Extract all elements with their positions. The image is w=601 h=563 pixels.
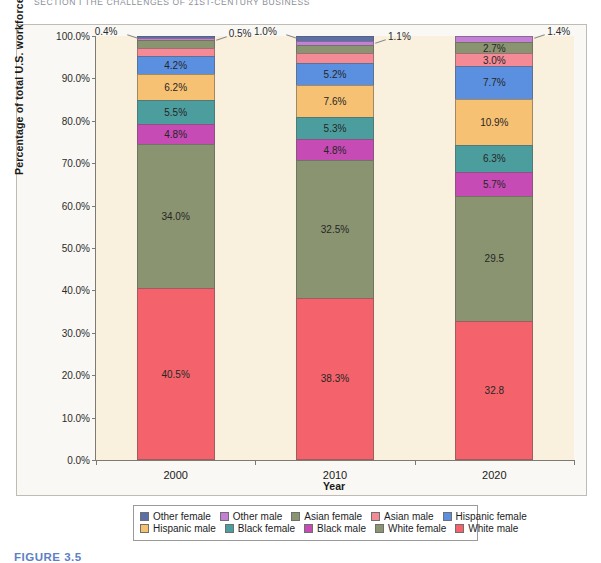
legend-item-hispanic-female[interactable]: Hispanic female xyxy=(443,511,527,522)
legend-label: Black male xyxy=(317,523,366,534)
bar-2010[interactable]: 38.3%32.5%4.8%5.3%7.6%5.2%2.2%1.9%1.1%1.… xyxy=(296,36,374,460)
legend-label: Hispanic male xyxy=(153,523,216,534)
bar-2020[interactable]: 32.829.55.7%6.3%10.9%7.7%3.0%2.7%1.4% xyxy=(455,36,533,460)
legend-label: Asian male xyxy=(384,511,433,522)
bar-2000[interactable]: 40.5%34.0%4.8%5.5%6.2%4.2%2.1%1.8%0.5%0.… xyxy=(137,36,215,460)
bar-segment-asian-female[interactable]: 2.7% xyxy=(455,42,533,53)
bar-segment-value: 6.3% xyxy=(483,153,506,164)
legend-swatch-icon xyxy=(225,524,234,533)
bar-segment-asian-male[interactable]: 2.2% xyxy=(296,53,374,62)
bar-segment-value: 4.2% xyxy=(164,60,187,71)
bar-segment-black-male[interactable]: 5.7% xyxy=(455,172,533,196)
y-axis-tick-mark xyxy=(92,418,96,419)
legend-item-white-female[interactable]: White female xyxy=(375,523,446,534)
bar-segment-hispanic-male[interactable]: 6.2% xyxy=(137,74,215,100)
legend-label: Black female xyxy=(238,523,295,534)
bar-segment-hispanic-female[interactable]: 5.2% xyxy=(296,63,374,85)
bar-segment-value: 7.7% xyxy=(483,77,506,88)
chart-container: Percentage of total U.S. workforce 0.0%1… xyxy=(16,24,587,496)
bar-segment-value: 3.0% xyxy=(483,55,506,66)
y-axis-tick-label: 90.0% xyxy=(62,73,96,84)
bar-segment-white-female[interactable]: 34.0% xyxy=(137,144,215,288)
legend-swatch-icon xyxy=(140,512,149,521)
bar-segment-black-male[interactable]: 4.8% xyxy=(296,139,374,159)
legend-swatch-icon xyxy=(140,524,149,533)
bar-segment-value: 5.2% xyxy=(324,69,347,80)
legend-item-asian-female[interactable]: Asian female xyxy=(291,511,362,522)
y-axis-tick-label: 40.0% xyxy=(62,285,96,296)
legend-swatch-icon xyxy=(455,524,464,533)
y-axis-tick-mark xyxy=(92,333,96,334)
legend-row: Other femaleOther maleAsian femaleAsian … xyxy=(140,511,471,522)
chart-legend: Other femaleOther maleAsian femaleAsian … xyxy=(133,505,478,541)
bar-segment-black-female[interactable]: 5.5% xyxy=(137,100,215,123)
bar-segment-value: 5.5% xyxy=(164,107,187,118)
x-axis-tick-mark xyxy=(574,460,575,465)
x-axis-title: Year xyxy=(95,480,573,492)
bar-segment-other-female[interactable]: 0.4% xyxy=(137,36,215,38)
bar-segment-value: 32.5% xyxy=(321,224,349,235)
bar-segment-asian-female[interactable]: 1.9% xyxy=(296,45,374,53)
callout-label: 1.1% xyxy=(388,31,411,42)
legend-swatch-icon xyxy=(304,524,313,533)
bar-segment-hispanic-male[interactable]: 10.9% xyxy=(455,99,533,145)
bar-segment-value: 5.3% xyxy=(324,123,347,134)
bar-segment-white-male[interactable]: 38.3% xyxy=(296,298,374,460)
bar-segment-value: 32.8 xyxy=(485,385,504,396)
y-axis-tick-label: 30.0% xyxy=(62,327,96,338)
legend-label: Other male xyxy=(233,511,282,522)
bar-segment-other-female[interactable]: 1.0% xyxy=(296,36,374,40)
bar-segment-white-male[interactable]: 40.5% xyxy=(137,288,215,460)
y-axis-tick-mark xyxy=(92,290,96,291)
bar-segment-hispanic-male[interactable]: 7.6% xyxy=(296,85,374,117)
y-axis-tick-label: 70.0% xyxy=(62,158,96,169)
bar-segment-asian-male[interactable]: 3.0% xyxy=(455,53,533,66)
legend-label: Hispanic female xyxy=(456,511,527,522)
bar-segment-asian-female[interactable]: 1.8% xyxy=(137,40,215,48)
callout-leader-line xyxy=(216,36,227,40)
bar-segment-value: 40.5% xyxy=(161,369,189,380)
bar-segment-value: 6.2% xyxy=(164,82,187,93)
legend-swatch-icon xyxy=(371,512,380,521)
bar-segment-asian-male[interactable]: 2.1% xyxy=(137,48,215,57)
y-axis-tick-label: 80.0% xyxy=(62,115,96,126)
callout-label: 0.4% xyxy=(95,26,118,37)
bar-segment-other-male[interactable]: 1.1% xyxy=(296,41,374,46)
bar-segment-value: 34.0% xyxy=(161,211,189,222)
bar-segment-black-female[interactable]: 6.3% xyxy=(455,145,533,172)
bar-segment-white-female[interactable]: 32.5% xyxy=(296,160,374,298)
bar-segment-other-male[interactable]: 0.5% xyxy=(137,38,215,40)
legend-item-black-male[interactable]: Black male xyxy=(304,523,366,534)
bar-segment-hispanic-female[interactable]: 4.2% xyxy=(137,56,215,74)
y-axis-tick-label: 100.0% xyxy=(56,31,96,42)
figure-caption: FIGURE 3.5 xyxy=(14,551,194,563)
legend-swatch-icon xyxy=(291,512,300,521)
legend-item-asian-male[interactable]: Asian male xyxy=(371,511,433,522)
bar-segment-black-female[interactable]: 5.3% xyxy=(296,117,374,139)
y-axis-tick-label: 50.0% xyxy=(62,243,96,254)
legend-label: White male xyxy=(468,523,518,534)
legend-item-other-male[interactable]: Other male xyxy=(220,511,282,522)
legend-row: Hispanic maleBlack femaleBlack maleWhite… xyxy=(140,523,471,534)
legend-item-black-female[interactable]: Black female xyxy=(225,523,295,534)
legend-swatch-icon xyxy=(220,512,229,521)
callout-label: 0.5% xyxy=(229,28,252,39)
y-axis-title: Percentage of total U.S. workforce xyxy=(13,0,25,175)
y-axis-tick-mark xyxy=(92,206,96,207)
y-axis-tick-label: 10.0% xyxy=(62,412,96,423)
bar-segment-other-male[interactable]: 1.4% xyxy=(455,36,533,42)
bar-segment-hispanic-female[interactable]: 7.7% xyxy=(455,66,533,99)
bar-segment-value: 29.5 xyxy=(485,253,504,264)
x-axis-tick-mark xyxy=(255,460,256,465)
bar-segment-white-male[interactable]: 32.8 xyxy=(455,321,533,460)
legend-item-hispanic-male[interactable]: Hispanic male xyxy=(140,523,216,534)
y-axis-tick-mark xyxy=(92,248,96,249)
callout-label: 1.4% xyxy=(547,26,570,37)
legend-label: Asian female xyxy=(304,511,362,522)
bar-segment-black-male[interactable]: 4.8% xyxy=(137,124,215,144)
callout-leader-line xyxy=(375,39,386,43)
legend-item-other-female[interactable]: Other female xyxy=(140,511,211,522)
y-axis-tick-mark xyxy=(92,121,96,122)
bar-segment-white-female[interactable]: 29.5 xyxy=(455,196,533,321)
legend-item-white-male[interactable]: White male xyxy=(455,523,518,534)
